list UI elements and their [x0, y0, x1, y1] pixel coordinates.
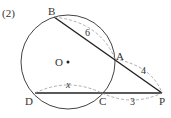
label-o: O: [55, 56, 63, 68]
length-cp: 3: [130, 96, 135, 107]
problem-number: (2): [2, 7, 15, 20]
label-d: D: [25, 95, 33, 107]
length-ap: 4: [141, 65, 146, 76]
secant-diagram: (2) B A P C D O 6 4 x 3: [0, 0, 171, 118]
center-dot: [67, 61, 70, 64]
label-b: B: [48, 5, 55, 17]
label-c: C: [99, 95, 106, 107]
length-dc: x: [65, 79, 71, 90]
label-p: P: [159, 95, 165, 107]
length-ba: 6: [85, 27, 90, 38]
label-a: A: [116, 50, 124, 62]
